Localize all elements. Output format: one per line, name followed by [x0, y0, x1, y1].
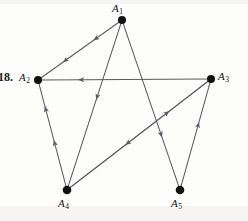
vertex-label-a3: A3 — [218, 70, 228, 82]
graph-edge-a1-a5 — [123, 23, 179, 186]
vertex-label-a4: A4 — [58, 197, 68, 209]
arrowhead-a4-a2-1 — [42, 105, 49, 112]
vertex-label-a5: A5 — [171, 197, 181, 209]
graph-edge-a3-a2 — [41, 79, 207, 80]
directed-graph-figure — [0, 0, 248, 221]
arrowhead-a1-a5-0 — [158, 131, 165, 139]
graph-edge-a4-a2 — [39, 83, 66, 186]
graph-edge-a1-a4 — [68, 23, 121, 186]
graph-edge-a1-a2 — [41, 22, 119, 78]
arrowhead-a1-a4-0 — [94, 93, 101, 100]
graph-edge-a4-a3 — [70, 81, 208, 188]
vertex-label-a2: A2 — [19, 71, 29, 83]
arrowhead-a4-a2-0 — [51, 139, 58, 146]
arrowhead-a5-a3-0 — [195, 121, 202, 128]
vertex-a2 — [34, 76, 42, 84]
vertex-label-a1: A1 — [112, 2, 122, 14]
vertex-a4 — [63, 186, 72, 195]
vertex-a1 — [118, 16, 126, 24]
figure-page: 18. A1A2A3A4A5 — [0, 0, 248, 221]
graph-edge-a5-a3 — [181, 82, 210, 186]
vertex-a3 — [207, 75, 215, 83]
vertex-a5 — [176, 186, 185, 195]
arrowhead-layer — [42, 35, 201, 147]
arrowhead-a1-a2-1 — [61, 57, 69, 65]
arrowhead-a1-a2-0 — [92, 35, 100, 43]
edge-layer — [39, 22, 210, 188]
